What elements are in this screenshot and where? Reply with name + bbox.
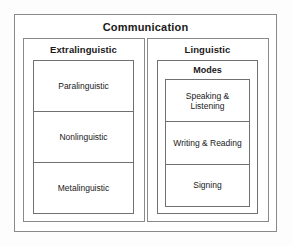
extralinguistic-cell-paralinguistic: Paralinguistic [34, 61, 133, 112]
linguistic-title: Linguistic [185, 44, 231, 55]
modes-cell-stack: Speaking & Listening Writing & Reading S… [165, 79, 250, 207]
modes-title: Modes [193, 65, 222, 75]
extralinguistic-cell-nonlinguistic: Nonlinguistic [34, 112, 133, 163]
modes-cell-signing: Signing [166, 165, 249, 206]
modes-cell-writing-reading: Writing & Reading [166, 122, 249, 164]
communication-box: Communication Extralinguistic Paralingui… [14, 14, 277, 232]
extralinguistic-title: Extralinguistic [50, 44, 117, 55]
category-panel-row: Extralinguistic Paralinguistic Nonlingui… [23, 38, 269, 222]
diagram-canvas: Communication Extralinguistic Paralingui… [0, 0, 293, 246]
communication-title: Communication [103, 21, 189, 33]
modes-group: Modes Speaking & Listening Writing & Rea… [157, 60, 258, 214]
extralinguistic-panel: Extralinguistic Paralinguistic Nonlingui… [23, 38, 145, 222]
modes-cell-speaking-listening: Speaking & Listening [166, 80, 249, 122]
extralinguistic-group: Paralinguistic Nonlinguistic Metalinguis… [33, 60, 134, 214]
linguistic-panel: Linguistic Modes Speaking & Listening Wr… [147, 38, 269, 222]
extralinguistic-cell-metalinguistic: Metalinguistic [34, 163, 133, 213]
